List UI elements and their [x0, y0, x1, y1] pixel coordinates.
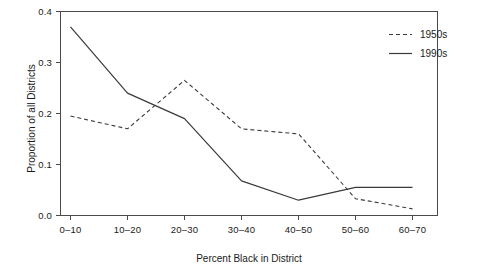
y-tick-label-0.4: 0.4: [14, 6, 52, 17]
plot-area-border: [61, 12, 438, 216]
x-tick-label-0-10: 0–10: [38, 224, 103, 235]
series-line-1990s: [71, 27, 413, 200]
x-tick-label-60-70: 60–70: [380, 224, 445, 235]
x-axis-title: Percent Black in District: [60, 253, 438, 264]
x-tick-label-30-40: 30–40: [209, 224, 274, 235]
line-chart: 0.4 0.3 0.2 0.1 0.0 0–10 10–20 20–30 30–…: [0, 0, 484, 276]
x-tick-label-20-30: 20–30: [152, 224, 217, 235]
y-axis-ticks: [56, 12, 61, 216]
x-axis-ticks: [71, 216, 413, 221]
x-tick-label-40-50: 40–50: [266, 224, 331, 235]
legend-label-1950s: 1950s: [420, 29, 447, 40]
legend-label-1990s: 1990s: [420, 48, 447, 59]
x-tick-label-50-60: 50–60: [323, 224, 388, 235]
series-line-1950s: [71, 80, 413, 209]
x-tick-label-10-20: 10–20: [95, 224, 160, 235]
y-axis-title: Proportion of all Districts: [26, 24, 37, 214]
